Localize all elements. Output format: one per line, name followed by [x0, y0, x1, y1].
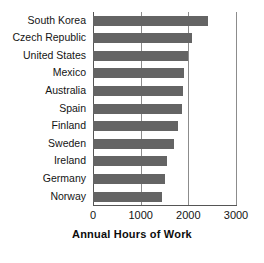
x-tick-label: 1000	[128, 208, 152, 222]
category-axis-labels: South KoreaCzech RepublicUnited StatesMe…	[0, 12, 264, 206]
category-label: United States	[23, 50, 86, 61]
category-label: Mexico	[53, 67, 86, 78]
annual-hours-of-work-bar-chart: South KoreaCzech RepublicUnited StatesMe…	[0, 0, 264, 263]
category-label: Germany	[43, 173, 86, 184]
x-axis-tick-labels: 0100020003000	[0, 208, 264, 224]
category-label: South Korea	[28, 15, 86, 26]
x-axis-title: Annual Hours of Work	[0, 228, 264, 240]
category-label: Ireland	[54, 155, 86, 166]
category-label: Sweden	[48, 138, 86, 149]
category-label: Finland	[52, 120, 86, 131]
category-label: Australia	[45, 85, 86, 96]
category-label: Spain	[59, 103, 86, 114]
x-tick-label: 0	[90, 208, 96, 222]
x-tick-label: 2000	[176, 208, 200, 222]
category-label: Czech Republic	[12, 32, 86, 43]
x-tick-label: 3000	[224, 208, 248, 222]
category-label: Norway	[50, 191, 86, 202]
